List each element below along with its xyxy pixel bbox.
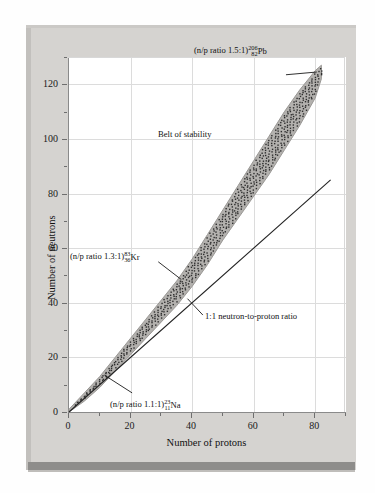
sodium-label-prefix: (n/p ratio 1.1:1) [110,399,164,409]
x-tick-minor [283,413,284,416]
krypton-label: (n/p ratio 1.3:1)8336Kr [70,251,140,264]
y-tick-label: 80 [32,188,58,199]
lead-atomic-number: 82 [248,51,257,57]
krypton-label-prefix: (n/p ratio 1.3:1) [70,251,124,261]
y-tick-major [62,412,67,413]
panel-left-edge [26,25,31,470]
y-tick-minor [64,275,67,276]
x-tick-major [253,413,254,418]
belt-of-stability-label: Belt of stability [158,130,211,139]
x-tick-label: 60 [238,420,268,431]
y-tick-label: 0 [32,406,58,417]
sodium-label: (n/p ratio 1.1:1)2311Na [110,399,181,412]
x-tick-minor [222,413,223,416]
x-tick-label: 80 [299,420,329,431]
x-tick-label: 0 [53,420,83,431]
krypton-leader-line [158,262,181,280]
y-tick-minor [64,166,67,167]
lead-label-prefix: (n/p ratio 1.5:1) [194,45,248,55]
panel-top-edge [26,25,356,28]
lead-symbol: Pb [258,47,267,56]
y-tick-label: 100 [32,133,58,144]
y-tick-minor [64,330,67,331]
y-tick-major [62,84,67,85]
sodium-symbol: Na [170,401,180,410]
y-tick-major [62,248,67,249]
y-tick-minor [64,385,67,386]
x-tick-major [68,413,69,418]
y-tick-major [62,303,67,304]
plot-area [68,57,346,413]
lead-label: (n/p ratio 1.5:1)20682Pb [194,45,267,58]
y-tick-major [62,357,67,358]
chart-canvas [69,57,346,412]
belt-of-stability-band [69,65,321,412]
ratio-leader-line [187,299,202,315]
x-axis-title: Number of protons [68,437,345,448]
y-tick-major [62,139,67,140]
y-tick-minor [64,221,67,222]
figure-root: 020406080020406080100120 Number of proto… [0,0,375,493]
x-tick-major [130,413,131,418]
y-tick-major [62,194,67,195]
y-tick-label: 20 [32,351,58,362]
bottom-accent-bar-shadow [28,470,355,472]
y-axis-title: Number of neutrons [46,215,57,300]
y-tick-minor [64,112,67,113]
x-tick-label: 20 [115,420,145,431]
x-tick-minor [160,413,161,416]
x-tick-major [191,413,192,418]
x-tick-minor [345,413,346,416]
x-tick-major [314,413,315,418]
y-tick-minor [64,57,67,58]
plot-frame-right [344,57,345,412]
sodium-leader-line [104,375,132,393]
bottom-accent-bar [28,462,355,470]
one-to-one-ratio-label: 1:1 neutron-to-proton ratio [205,312,297,321]
krypton-symbol: Kr [130,253,139,262]
y-tick-label: 120 [32,78,58,89]
x-tick-label: 40 [176,420,206,431]
x-tick-minor [99,413,100,416]
